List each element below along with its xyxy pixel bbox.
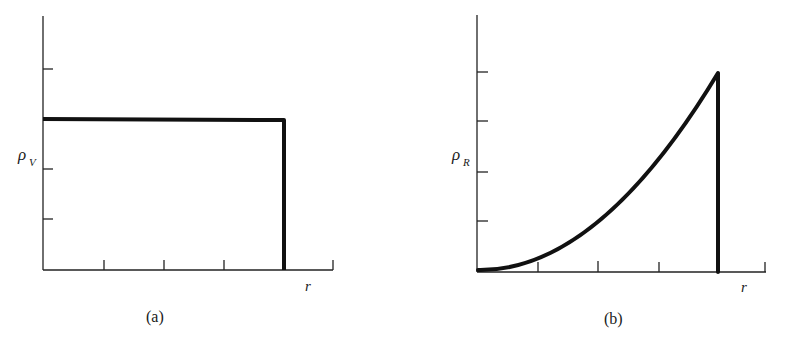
figure: ρ V r (a) ρ R r (b) [0, 0, 788, 347]
x-axis-label: r [741, 279, 747, 295]
y-axis-label-subscript: R [462, 156, 470, 168]
y-ticks [43, 69, 53, 219]
panel-a: ρ V r (a) [17, 16, 333, 326]
x-axis-label: r [305, 278, 311, 294]
step-curve [43, 119, 284, 270]
y-ticks [477, 72, 488, 221]
panel-b: ρ R r (b) [451, 15, 766, 328]
panel-caption: (a) [146, 308, 164, 326]
x-ticks [538, 261, 765, 272]
y-axis-label: ρ [451, 145, 460, 164]
quadratic-curve [478, 73, 718, 272]
y-axis-label-subscript: V [29, 156, 37, 168]
x-ticks [104, 260, 333, 270]
panel-caption: (b) [604, 310, 623, 328]
y-axis-label: ρ [17, 145, 26, 164]
